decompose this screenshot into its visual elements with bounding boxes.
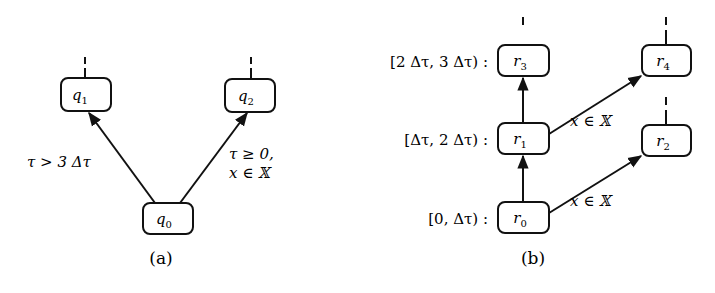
node-r1: r1 bbox=[498, 123, 549, 154]
node-r2: r2 bbox=[642, 125, 691, 156]
caption-a: (a) bbox=[149, 248, 172, 268]
node-r0: r0 bbox=[498, 202, 549, 233]
node-r4: r4 bbox=[642, 45, 691, 76]
panel-b: r3 r4 r1 r2 r0 [2 Δτ, 3 Δτ) : [Δτ, 2 Δτ)… bbox=[390, 17, 691, 268]
node-q2: q2 bbox=[225, 79, 275, 112]
diagram-canvas: q1 q2 q0 τ > 3 Δτ τ ≥ 0, x ∈ 𝕏 (a) bbox=[0, 0, 715, 293]
interval-label-r0: [0, Δτ) : bbox=[428, 210, 488, 228]
interval-label-r3: [2 Δτ, 3 Δτ) : bbox=[390, 53, 488, 71]
edge-label-q0-q1: τ > 3 Δτ bbox=[27, 153, 92, 171]
node-q0: q0 bbox=[143, 203, 193, 234]
interval-label-r1: [Δτ, 2 Δτ) : bbox=[404, 131, 488, 149]
panel-a: q1 q2 q0 τ > 3 Δτ τ ≥ 0, x ∈ 𝕏 (a) bbox=[27, 57, 275, 268]
edge-q0-q1 bbox=[89, 113, 155, 203]
node-r3: r3 bbox=[498, 45, 549, 76]
edge-label-r1-r4: x ∈ 𝕏 bbox=[570, 112, 613, 130]
edge-label-q0-q2-line2: x ∈ 𝕏 bbox=[229, 164, 272, 182]
node-q1: q1 bbox=[61, 78, 111, 111]
caption-b: (b) bbox=[521, 248, 545, 268]
edge-label-r0-r2: x ∈ 𝕏 bbox=[570, 192, 613, 210]
edge-label-q0-q2-line1: τ ≥ 0, bbox=[229, 145, 274, 163]
